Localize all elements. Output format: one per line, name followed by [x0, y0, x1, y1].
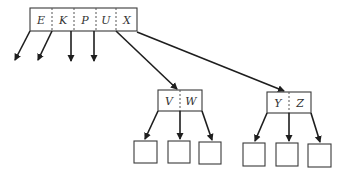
pointer-arrow — [255, 113, 267, 141]
root-key-e: E — [36, 14, 45, 27]
leaf-box — [308, 144, 331, 167]
leaf-box — [276, 143, 298, 166]
b-tree-diagram: E K P U X V W Y Z — [0, 0, 346, 184]
root-key-x: X — [122, 14, 132, 27]
child-node-vw: V W — [134, 90, 221, 164]
root-node: E K P U X — [30, 8, 137, 31]
pointer-arrow — [145, 111, 158, 139]
node-key-w: W — [185, 95, 198, 108]
pointer-arrow-to-vw — [116, 31, 177, 89]
leaf-box — [134, 141, 157, 163]
pointer-arrow-1 — [15, 31, 30, 60]
leaf-box — [199, 142, 221, 164]
node-key-v: V — [165, 95, 174, 108]
root-key-p: P — [80, 14, 89, 27]
node-key-z: Z — [295, 97, 304, 110]
root-pointers — [15, 31, 284, 91]
child-node-yz: Y Z — [243, 92, 331, 167]
leaf-box — [243, 143, 265, 166]
pointer-arrow-to-yz — [137, 32, 284, 91]
pointer-arrow — [311, 113, 320, 142]
leaf-box — [168, 141, 190, 163]
root-key-k: K — [58, 14, 68, 27]
pointer-arrow-2 — [38, 31, 52, 60]
pointer-arrow — [202, 111, 212, 140]
root-key-u: U — [101, 14, 111, 27]
